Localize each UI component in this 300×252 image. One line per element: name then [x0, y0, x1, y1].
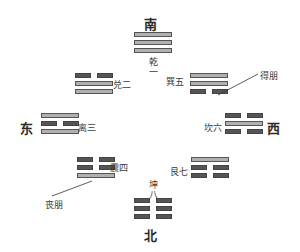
- leader-lines: [0, 0, 300, 252]
- leader-line-lose-friend: [52, 181, 92, 196]
- leader-line-gain-friend: [218, 74, 258, 95]
